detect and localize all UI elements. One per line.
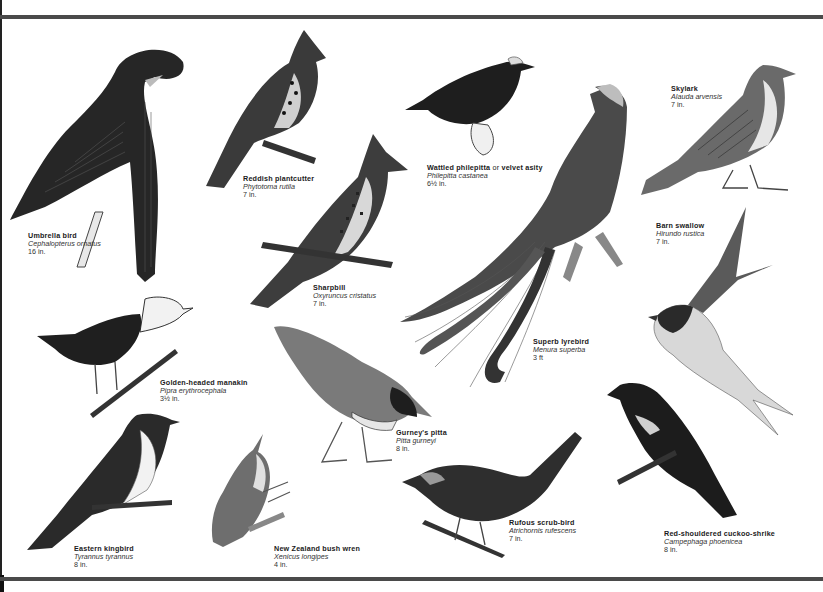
size: 16 in. [28,248,101,256]
caption-red-shouldered-cuckoo-shrike: Red-shouldered cuckoo-shrike Campephaga … [664,530,775,554]
size: 8 in. [74,561,134,569]
scientific-name: Campephaga phoenicea [664,538,775,546]
size: 7 in. [671,101,722,109]
bird-plate: Umbrella bird Cephalopterus ornatus 16 i… [0,0,823,592]
size: 7 in. [509,535,576,543]
size: 3½ in. [160,395,248,403]
size: 7 in. [313,300,376,308]
size: 4 in. [274,561,360,569]
caption-golden-headed-manakin: Golden-headed manakin Pipra erythrocepha… [160,379,248,403]
red-shouldered-cuckoo-shrike-illustration [605,380,740,520]
size: 8 in. [664,546,775,554]
eastern-kingbird-illustration [22,410,182,555]
caption-superb-lyrebird: Superb lyrebird Menura superba 3 ft [533,338,589,362]
caption-new-zealand-bush-wren: New Zealand bush wren Xenicus longipes 4… [274,545,360,569]
top-rule [0,15,823,19]
caption-rufous-scrub-bird: Rufous scrub-bird Atrichornis rufescens … [509,519,576,543]
bottom-rule [0,577,823,581]
skylark-illustration [638,60,798,200]
caption-skylark: Skylark Alauda arvensis 7 in. [671,85,722,109]
size: 7 in. [656,238,704,246]
caption-barn-swallow: Barn swallow Hirundo rustica 7 in. [656,222,704,246]
caption-umbrella-bird: Umbrella bird Cephalopterus ornatus 16 i… [28,232,101,256]
page-edge [0,0,2,592]
caption-sharpbill: Sharpbill Oxyruncus cristatus 7 in. [313,284,376,308]
caption-eastern-kingbird: Eastern kingbird Tyrannus tyrannus 8 in. [74,545,134,569]
new-zealand-bush-wren-illustration [208,432,293,550]
size: 3 ft [533,354,589,362]
